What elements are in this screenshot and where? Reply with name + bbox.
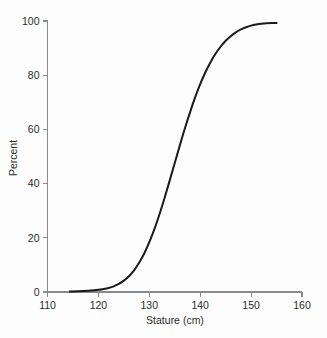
x-tick-label: 160 (293, 299, 311, 311)
y-tick-label: 0 (34, 286, 40, 298)
x-tick-label: 120 (90, 299, 108, 311)
chart-container: 020406080100 110120130140150160 Stature … (0, 0, 327, 338)
y-tick-label: 80 (28, 69, 40, 81)
y-axis-tick-marks (43, 21, 48, 292)
x-axis-tick-marks (48, 292, 303, 297)
x-tick-label: 130 (141, 299, 159, 311)
x-tick-label: 150 (242, 299, 260, 311)
chart-svg: 020406080100 110120130140150160 Stature … (0, 0, 327, 338)
x-axis-tick-labels: 110120130140150160 (39, 299, 311, 311)
x-axis-title: Stature (cm) (146, 314, 204, 326)
axes-group (48, 21, 303, 292)
y-tick-label: 40 (28, 177, 40, 189)
y-axis-tick-labels: 020406080100 (22, 15, 40, 298)
data-series-line (70, 23, 277, 292)
y-tick-label: 20 (28, 232, 40, 244)
y-axis-title: Percent (7, 140, 19, 176)
y-tick-label: 60 (28, 123, 40, 135)
x-tick-label: 140 (191, 299, 209, 311)
x-tick-label: 110 (39, 299, 56, 311)
y-tick-label: 100 (22, 15, 40, 27)
